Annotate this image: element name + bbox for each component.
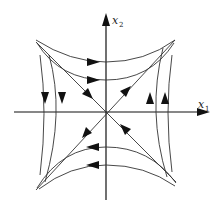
arrow-upper-right-outward-icon [120,86,131,97]
x2-axis-subscript: 2 [119,21,123,29]
x1-axis [14,108,210,116]
arrow-top-2-right-icon [87,76,100,84]
arrow-lower-left-outward-icon [82,127,92,138]
arrow-left-2-down-icon [58,92,66,104]
x1-axis-subscript: 1 [205,105,209,113]
arrow-top-1-right-icon [87,58,100,66]
x1-axis-label: x [198,98,205,111]
arrow-lower-right-inward-icon [120,124,131,135]
arrow-bottom-2-left-icon [86,161,99,169]
phase-portrait-diagram: x 2 x 1 [0,0,221,208]
arrow-right-1-up-icon [146,92,154,104]
x2-axis-arrowhead-icon [102,13,110,26]
left-trajectories [40,55,66,182]
arrow-left-1-down-icon [41,92,49,104]
arrow-bottom-1-left-icon [86,143,99,151]
x2-axis-label: x [112,14,119,27]
x2-axis [102,13,110,200]
arrow-right-2-up-icon [161,92,169,104]
